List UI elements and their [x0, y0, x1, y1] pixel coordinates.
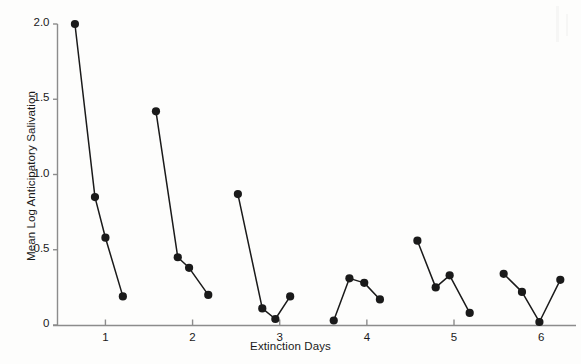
- data-point-marker: [413, 237, 421, 245]
- series-block: [234, 190, 294, 323]
- series-line: [238, 194, 290, 319]
- chart-plot-area: [0, 0, 581, 364]
- x-axis-ticks: [105, 320, 541, 326]
- data-point-marker: [258, 304, 266, 312]
- data-point-marker: [119, 292, 127, 300]
- data-point-marker: [152, 107, 160, 115]
- data-point-marker: [345, 274, 353, 282]
- data-point-marker: [376, 295, 384, 303]
- salivation-extinction-chart: Mean Log Anticipatory Salivation Extinct…: [0, 0, 581, 364]
- data-point-marker: [556, 276, 564, 284]
- series-line: [504, 274, 561, 322]
- series-block: [330, 274, 384, 324]
- y-tick-label: 1.5: [16, 91, 50, 103]
- data-point-marker: [185, 264, 193, 272]
- data-point-marker: [271, 315, 279, 323]
- y-tick-label: 1.0: [16, 167, 50, 179]
- data-point-marker: [535, 318, 543, 326]
- data-point-marker: [204, 291, 212, 299]
- series-line: [417, 241, 469, 313]
- x-tick-label: 2: [181, 331, 205, 343]
- data-point-marker: [234, 190, 242, 198]
- data-point-marker: [360, 279, 368, 287]
- data-series-group: [71, 20, 565, 326]
- data-point-marker: [432, 283, 440, 291]
- data-point-marker: [518, 288, 526, 296]
- data-point-marker: [174, 253, 182, 261]
- y-tick-label: 0.5: [16, 242, 50, 254]
- data-point-marker: [101, 234, 109, 242]
- data-point-marker: [446, 271, 454, 279]
- series-line: [334, 278, 380, 320]
- data-point-marker: [286, 292, 294, 300]
- scan-artifact-2: [566, 14, 568, 36]
- x-tick-label: 4: [355, 331, 379, 343]
- data-point-marker: [91, 193, 99, 201]
- series-block: [71, 20, 127, 301]
- x-tick-label: 6: [529, 331, 553, 343]
- x-tick-label: 3: [268, 331, 292, 343]
- series-line: [75, 24, 123, 296]
- series-block: [413, 237, 473, 317]
- scan-artifact-1: [556, 6, 559, 42]
- data-point-marker: [500, 270, 508, 278]
- data-point-marker: [330, 316, 338, 324]
- data-point-marker: [466, 309, 474, 317]
- y-tick-label: 0: [16, 317, 50, 329]
- series-line: [156, 111, 208, 295]
- axes: [53, 24, 576, 326]
- data-point-marker: [71, 20, 79, 28]
- series-block: [152, 107, 212, 299]
- x-tick-label: 5: [442, 331, 466, 343]
- series-block: [500, 270, 565, 326]
- x-tick-label: 1: [93, 331, 117, 343]
- y-tick-label: 2.0: [16, 16, 50, 28]
